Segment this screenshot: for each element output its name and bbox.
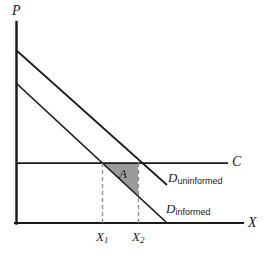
diagram-canvas: [0, 0, 271, 254]
uninformed-demand-curve: [16, 50, 167, 185]
shaded-region-label: A: [119, 167, 127, 180]
tick-label-x2: X2: [132, 230, 144, 243]
informed-demand-curve: [16, 83, 166, 222]
tick-label-x1-base: X: [96, 229, 104, 244]
economics-demand-diagram: P X C A Duninformed Dinformed X1 X2: [0, 0, 271, 254]
x-axis-label: X: [248, 216, 257, 230]
informed-demand-label: Dinformed: [166, 202, 210, 215]
uninformed-demand-label: Duninformed: [168, 171, 222, 184]
tick-label-x2-base: X: [132, 229, 140, 244]
uninformed-demand-label-subscript: uninformed: [177, 176, 222, 186]
y-axis-label: P: [12, 4, 21, 18]
tick-label-x1-subscript: 1: [104, 235, 109, 245]
informed-demand-label-subscript: informed: [175, 207, 210, 217]
tick-label-x2-subscript: 2: [140, 235, 145, 245]
tick-label-x1: X1: [96, 230, 108, 243]
informed-demand-label-base: D: [166, 201, 175, 216]
uninformed-demand-label-base: D: [168, 170, 177, 185]
marginal-cost-label: C: [232, 155, 241, 169]
